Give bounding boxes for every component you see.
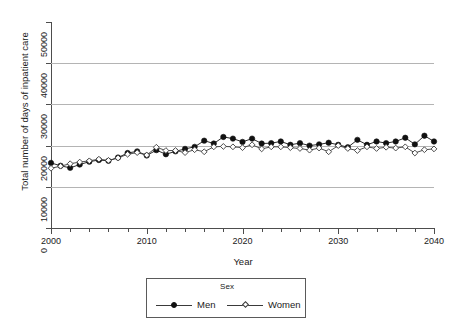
series-men (48, 133, 436, 171)
open-diamond-marker-icon (241, 301, 248, 308)
data-point-marker (422, 133, 427, 138)
x-tick-mark-minor (185, 229, 186, 232)
x-tick-label: 2030 (318, 236, 358, 246)
data-point-marker (374, 146, 380, 152)
data-point-marker (393, 145, 399, 151)
legend-entry-women[interactable]: Women (227, 297, 301, 313)
data-point-marker (259, 146, 265, 152)
x-tick-mark-minor (281, 229, 282, 232)
data-point-marker (249, 142, 255, 148)
data-point-marker (326, 140, 331, 145)
data-point-marker (355, 148, 361, 154)
data-point-marker (431, 139, 436, 144)
x-tick-mark-minor (204, 229, 205, 232)
legend: Sex Men Women (146, 278, 306, 318)
data-point-marker (230, 144, 236, 150)
data-point-marker (403, 135, 408, 140)
data-point-marker (297, 146, 303, 152)
x-tick-mark-major (434, 229, 435, 234)
data-point-marker (355, 137, 360, 142)
x-tick-label: 2040 (414, 236, 449, 246)
data-point-marker (230, 136, 235, 141)
x-tick-mark-minor (377, 229, 378, 232)
data-point-marker (326, 149, 332, 155)
legend-line-men (156, 300, 192, 310)
x-tick-mark-minor (415, 229, 416, 232)
series-women (48, 142, 437, 171)
x-axis-title: Year (51, 256, 435, 267)
x-tick-mark-minor (70, 229, 71, 232)
data-point-marker (220, 144, 226, 150)
data-point-marker (249, 136, 254, 141)
x-tick-mark-minor (108, 229, 109, 232)
legend-line-women (227, 300, 263, 310)
y-tick-label: 20000 (40, 145, 49, 191)
legend-label-women: Women (268, 300, 301, 310)
x-tick-label: 2010 (127, 236, 167, 246)
x-tick-label: 2000 (31, 236, 71, 246)
x-tick-mark-minor (300, 229, 301, 232)
data-point-marker (240, 145, 246, 151)
data-point-marker (412, 142, 417, 147)
y-tick-label: 10000 (40, 186, 49, 232)
x-tick-label: 2020 (223, 236, 263, 246)
data-point-marker (221, 134, 226, 139)
data-point-marker (412, 150, 418, 156)
x-tick-mark-major (243, 229, 244, 234)
plot-area (51, 22, 434, 228)
data-point-marker (393, 139, 398, 144)
y-tick-label: 30000 (40, 104, 49, 150)
data-point-marker (402, 144, 408, 150)
data-point-marker (201, 149, 207, 155)
x-tick-mark-minor (396, 229, 397, 232)
y-tick-label: 50000 (40, 22, 49, 68)
legend-entry-men[interactable]: Men (156, 297, 215, 313)
data-point-marker (422, 147, 428, 153)
x-tick-mark-minor (128, 229, 129, 232)
data-point-marker (48, 165, 54, 171)
x-tick-mark-minor (166, 229, 167, 232)
data-point-marker (431, 146, 437, 152)
x-tick-mark-major (147, 229, 148, 234)
series-layer (51, 22, 434, 228)
x-tick-mark-minor (319, 229, 320, 232)
data-point-marker (278, 144, 284, 150)
y-tick-label: 40000 (40, 63, 49, 109)
data-point-marker (374, 139, 379, 144)
x-tick-mark-minor (89, 229, 90, 232)
legend-label-men: Men (197, 300, 215, 310)
legend-title: Sex (147, 282, 307, 291)
x-tick-mark-minor (262, 229, 263, 232)
y-tick-label: 0 (40, 228, 49, 274)
data-point-marker (240, 139, 245, 144)
x-tick-mark-minor (357, 229, 358, 232)
data-point-marker (307, 147, 313, 153)
x-tick-mark-major (51, 229, 52, 234)
x-tick-mark-major (338, 229, 339, 234)
filled-circle-marker-icon (171, 302, 177, 308)
x-tick-mark-minor (223, 229, 224, 232)
y-axis-title: Total number of days of inpatient care (19, 2, 30, 222)
data-point-marker (202, 138, 207, 143)
